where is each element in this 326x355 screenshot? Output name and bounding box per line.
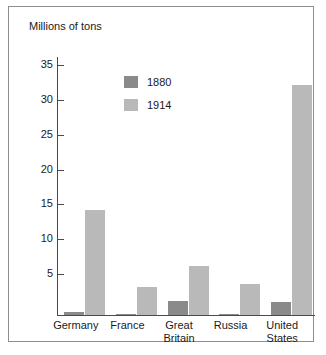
x-axis-category-label: Germany	[50, 319, 102, 332]
bar-united-states-1880	[271, 302, 291, 315]
bar-france-1914	[137, 287, 157, 315]
x-axis-category-label: France	[102, 319, 154, 332]
x-axis-category-line: Germany	[50, 319, 102, 332]
x-axis-line	[57, 315, 315, 316]
x-axis-category-line: Russia	[205, 319, 257, 332]
chart-title: Millions of tons	[29, 20, 102, 32]
x-axis-category-label: Russia	[205, 319, 257, 332]
bar-france-1880	[116, 314, 136, 316]
x-axis-category-line: Britain	[153, 332, 205, 345]
x-axis-category-line: States	[256, 332, 308, 345]
figure-frame: Millions of tons 5101520253035 18801914 …	[8, 6, 314, 342]
bar-russia-1914	[240, 284, 260, 315]
bar-great-britain-1880	[168, 301, 188, 315]
x-axis-category-line: United	[256, 319, 308, 332]
y-axis-tick-label: 35	[11, 58, 53, 70]
bar-germany-1914	[85, 210, 105, 315]
y-axis-tick-label: 5	[11, 267, 53, 279]
y-axis-tick-label: 10	[11, 232, 53, 244]
y-axis-tick-label: 20	[11, 163, 53, 175]
x-axis-category-line: France	[102, 319, 154, 332]
bar-russia-1880	[219, 314, 239, 316]
x-axis-category-label: GreatBritain	[153, 319, 205, 344]
y-axis-tick-label: 15	[11, 197, 53, 209]
bar-germany-1880	[64, 312, 84, 315]
bar-great-britain-1914	[189, 266, 209, 315]
bar-united-states-1914	[292, 85, 312, 315]
x-axis-category-line: Great	[153, 319, 205, 332]
y-axis-tick-label: 30	[11, 93, 53, 105]
bars-layer	[58, 57, 315, 315]
chart-page: Millions of tons 5101520253035 18801914 …	[0, 0, 326, 355]
x-axis-category-label: UnitedStates	[256, 319, 308, 344]
y-axis-tick-label: 25	[11, 128, 53, 140]
